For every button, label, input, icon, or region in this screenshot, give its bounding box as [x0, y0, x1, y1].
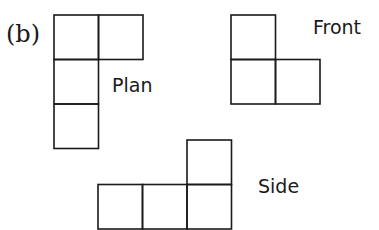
plan-label: Plan [112, 74, 152, 96]
plan-square [54, 60, 99, 105]
side-square [98, 185, 143, 230]
front-square [231, 15, 276, 60]
side-label: Side [258, 175, 299, 197]
front-square [276, 60, 321, 105]
plan-square [99, 15, 144, 60]
plan-square [54, 104, 99, 149]
side-square [143, 185, 188, 230]
front-square [231, 60, 276, 105]
figure: (b) Plan Front Side [0, 0, 379, 230]
side-view [98, 140, 232, 229]
side-square [187, 140, 232, 185]
plan-square [54, 15, 99, 60]
part-label: (b) [6, 20, 40, 48]
views-diagram: (b) Plan Front Side [0, 0, 379, 230]
side-square [187, 185, 232, 230]
front-label: Front [313, 16, 361, 38]
front-view [231, 15, 320, 104]
